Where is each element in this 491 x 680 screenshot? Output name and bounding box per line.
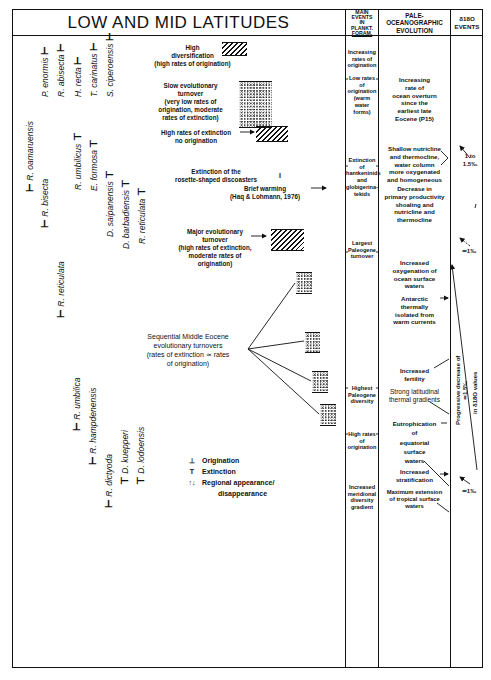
connector-lines xyxy=(0,0,491,680)
